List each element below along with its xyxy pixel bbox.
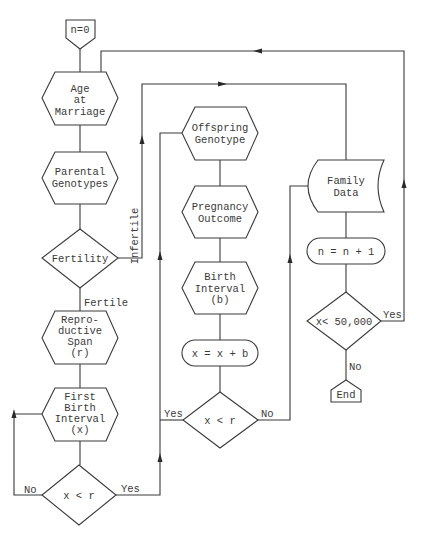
label-fertile: Fertile <box>84 297 128 309</box>
label-line: Data <box>333 187 358 199</box>
label-line: Pregnancy <box>192 201 249 213</box>
label-line: (x) <box>71 424 90 436</box>
label-left-yes: Yes <box>121 483 140 495</box>
label-line: x = x + b <box>192 348 249 360</box>
node-reproductive-span: Repro- ductive Span (r) <box>42 311 118 364</box>
node-decision-mid: x < r <box>183 392 258 448</box>
label-line: Fertility <box>52 253 109 265</box>
label-line: x< 50,000 <box>316 316 373 328</box>
node-fertility: Fertility <box>42 229 118 288</box>
label-line: x < r <box>204 415 236 427</box>
node-birth-interval: Birth Interval (b) <box>182 262 258 314</box>
node-family-data: Family Data <box>308 160 384 212</box>
label-left-no: No <box>24 484 37 496</box>
node-first-birth-interval: First Birth Interval (x) <box>42 388 118 441</box>
label-line: Family <box>327 175 365 187</box>
edge-mid-no <box>258 186 310 420</box>
arrow-up-icon <box>288 254 293 263</box>
edge-left-yes <box>116 133 182 495</box>
label-line: (b) <box>211 294 230 306</box>
label-line: Marriage <box>55 106 105 118</box>
label-line: (r) <box>71 347 90 359</box>
node-end: End <box>331 380 361 402</box>
node-decision-left: x < r <box>42 465 116 525</box>
node-start: n=0 <box>66 20 95 49</box>
label-line: Offspring <box>192 122 249 134</box>
arrow-up-icon <box>158 453 163 462</box>
label-line: Genotype <box>195 134 245 146</box>
label-infertile: Infertile <box>129 208 141 265</box>
label-mid-yes: Yes <box>164 408 183 420</box>
label-mid-no: No <box>261 408 274 420</box>
node-increment-x: x = x + b <box>182 340 258 366</box>
label-line: Outcome <box>198 213 242 225</box>
node-decision-right: x< 50,000 <box>307 292 381 350</box>
label-right-no: No <box>349 361 362 373</box>
node-pregnancy-outcome: Pregnancy Outcome <box>182 186 258 238</box>
label-line: Birth <box>204 271 236 283</box>
label-line: n = n + 1 <box>318 246 375 258</box>
label-line: Genotypes <box>52 178 109 190</box>
arrow-up-icon <box>402 179 407 188</box>
flowchart-canvas: n=0 Age at Marriage Parental Genotypes F… <box>0 0 422 538</box>
start-label: n=0 <box>71 24 90 36</box>
node-parental-genotypes: Parental Genotypes <box>42 152 118 204</box>
node-age-at-marriage: Age at Marriage <box>42 72 118 125</box>
arrow-right-icon <box>218 82 227 87</box>
arrow-up-icon <box>140 135 145 144</box>
label-right-yes: Yes <box>383 309 402 321</box>
node-offspring-genotype: Offspring Genotype <box>182 107 258 160</box>
label-line: Parental <box>55 166 105 178</box>
label-line: x < r <box>63 490 95 502</box>
label-line: at <box>74 94 87 106</box>
edge-left-no-loop <box>14 414 42 495</box>
arrow-left-icon <box>253 49 262 54</box>
arrow-up-icon <box>158 251 163 260</box>
node-increment-n: n = n + 1 <box>307 238 385 264</box>
label-line: End <box>337 389 356 401</box>
